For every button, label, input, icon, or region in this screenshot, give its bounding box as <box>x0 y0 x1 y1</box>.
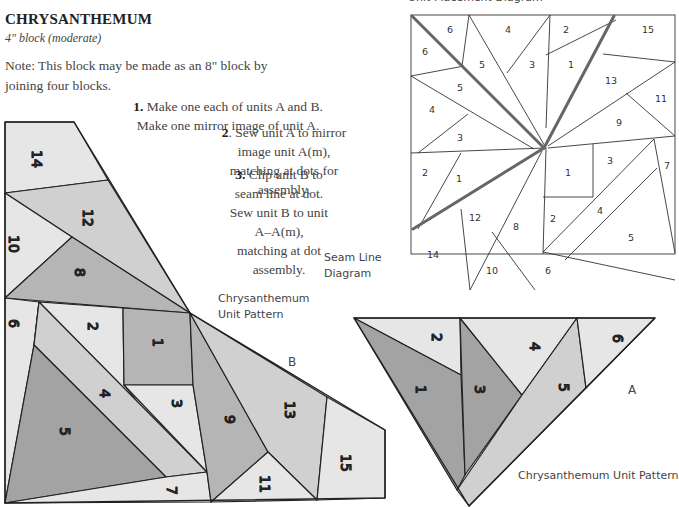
seam-label-1b: 1 <box>456 173 462 184</box>
unit-b-label-7: 7 <box>164 486 180 495</box>
seam-label-6a: 6 <box>447 24 453 35</box>
unit-b-label-5: 5 <box>57 427 73 436</box>
unit-b-pattern-label-line2: Unit Pattern <box>218 307 310 323</box>
unit-b-letter: B <box>288 355 296 369</box>
unit-a-label-3: 3 <box>472 385 488 394</box>
unit-b-label-3: 3 <box>169 399 185 408</box>
unit-placement-diagram-label: Unit Placement Diagram <box>408 0 543 4</box>
seam-label-4b: 4 <box>429 104 435 115</box>
unit-a-label-2: 2 <box>429 333 445 342</box>
unit-b-pattern-label: Chrysanthemum Unit Pattern <box>218 291 310 323</box>
unit-b-label-11: 11 <box>257 475 273 493</box>
seam-label-2b: 2 <box>422 167 428 178</box>
seam-line-diagram-label: Seam Line Diagram <box>324 250 382 282</box>
seam-label-3b: 3 <box>457 132 463 143</box>
seam-label-5b: 5 <box>457 82 463 93</box>
unit-a-label-1: 1 <box>413 385 429 394</box>
unit-b-label-2: 2 <box>85 322 101 331</box>
unit-b-label-9: 9 <box>222 415 238 424</box>
unit-a-label-5: 5 <box>556 383 572 392</box>
unit-b-label-10: 10 <box>6 235 22 253</box>
seam-label-2c: 2 <box>550 213 556 224</box>
unit-b-label-1: 1 <box>150 338 166 347</box>
unit-a-label-6: 6 <box>610 334 626 343</box>
seam-label-3c: 3 <box>607 155 613 166</box>
unit-b-label-12: 12 <box>80 209 96 227</box>
seam-diagram-frame <box>411 15 675 254</box>
unit-b-pattern-label-line1: Chrysanthemum <box>218 291 310 307</box>
seam-label-14: 14 <box>427 249 439 260</box>
seam-label-1c: 1 <box>565 167 571 178</box>
seam-label-12: 12 <box>469 212 481 223</box>
seam-line-diagram-label-line2: Diagram <box>324 266 382 282</box>
seam-label-5: 5 <box>479 59 485 70</box>
unit-b-label-4: 4 <box>97 389 113 398</box>
unit-a-pattern-label: Chrysanthemum Unit Pattern <box>518 469 679 482</box>
seam-label-3: 3 <box>529 59 535 70</box>
unit-b-label-14: 14 <box>29 150 45 168</box>
seam-label-6c: 6 <box>545 265 551 276</box>
unit-b-label-15: 15 <box>338 454 354 472</box>
unit-a-piece-6 <box>577 318 655 388</box>
seam-label-8: 8 <box>513 221 519 232</box>
seam-label-15: 15 <box>642 24 654 35</box>
seam-label-13: 13 <box>605 75 617 86</box>
seam-label-6b: 6 <box>422 46 428 57</box>
seam-label-1: 1 <box>568 59 574 70</box>
seam-label-4c: 4 <box>597 205 603 216</box>
seam-label-7: 7 <box>664 160 670 171</box>
unit-a-letter: A <box>628 383 636 397</box>
unit-b-label-13: 13 <box>282 401 298 419</box>
unit-b-label-8: 8 <box>72 268 88 277</box>
seam-label-4: 4 <box>505 24 511 35</box>
unit-a-label-4: 4 <box>527 342 543 351</box>
seam-label-9: 9 <box>616 117 622 128</box>
seam-label-10: 10 <box>486 265 498 276</box>
unit-b-piece-15 <box>317 397 385 500</box>
seam-label-2: 2 <box>563 24 569 35</box>
seam-line-diagram-label-line1: Seam Line <box>324 250 382 266</box>
seam-label-11: 11 <box>655 93 667 104</box>
unit-b-pattern: 14 12 10 8 6 2 1 4 5 3 7 9 13 11 15 <box>5 122 385 503</box>
unit-b-label-6: 6 <box>6 319 22 328</box>
seam-label-5c: 5 <box>628 232 634 243</box>
